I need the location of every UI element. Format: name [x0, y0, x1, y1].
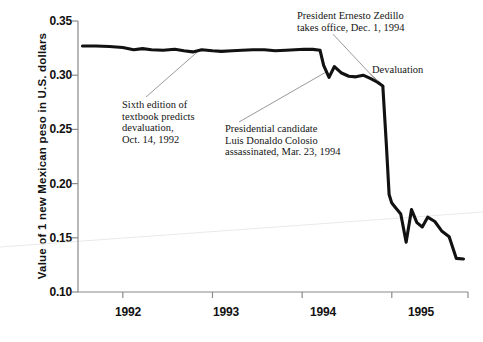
chart-plot-svg — [0, 0, 483, 342]
axes-group — [72, 21, 468, 298]
chart-container: Value of 1 new Mexican peso in U.S. doll… — [0, 0, 483, 342]
leader-line-textbook — [146, 51, 199, 98]
leader-line-colosio — [239, 72, 326, 122]
annotation-leader-lines — [146, 34, 385, 122]
